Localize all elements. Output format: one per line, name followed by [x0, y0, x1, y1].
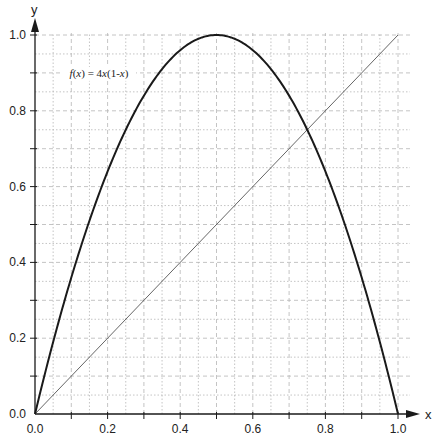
- y-axis-label: y: [31, 2, 38, 17]
- axes: x y: [31, 2, 432, 422]
- y-tick-label: 0.2: [9, 331, 26, 345]
- x-tick-label: 0.6: [244, 422, 261, 436]
- y-axis-arrow-icon: [31, 18, 39, 32]
- x-tick-label: 0.0: [27, 422, 44, 436]
- grid-lines: [35, 33, 410, 414]
- x-tick-label: 0.2: [99, 422, 116, 436]
- y-tick-label: 0.0: [9, 407, 26, 421]
- x-tick-label: 0.4: [172, 422, 189, 436]
- y-tick-label: 1.0: [9, 28, 26, 42]
- x-tick-label: 1.0: [390, 422, 407, 436]
- annotation-layer: f(x) = 4x(1-x): [62, 67, 136, 81]
- formula-label: f(x) = 4x(1-x): [70, 67, 129, 80]
- y-tick-label: 0.6: [9, 180, 26, 194]
- x-axis-label: x: [425, 407, 432, 422]
- logistic-map-chart: x y 0.00.20.40.60.81.00.00.20.40.60.81.0…: [0, 0, 433, 436]
- x-axis-arrow-icon: [406, 410, 420, 418]
- x-tick-label: 0.8: [317, 422, 334, 436]
- y-tick-label: 0.8: [9, 104, 26, 118]
- y-tick-label: 0.4: [9, 255, 26, 269]
